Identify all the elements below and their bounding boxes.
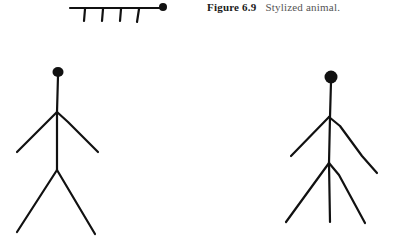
animal-leg-1 xyxy=(84,9,85,21)
drawing-canvas xyxy=(0,0,396,238)
animal-leg-2 xyxy=(102,9,103,21)
left-figure-left-leg xyxy=(17,170,57,232)
left-figure-spine xyxy=(57,76,58,170)
left-figure-left-arm xyxy=(17,112,57,152)
right-figure-spine xyxy=(329,82,331,163)
right-figure-left-leg xyxy=(286,163,329,222)
right-figure-left-arm xyxy=(291,117,329,156)
animal-leg-4 xyxy=(137,9,139,22)
stick-figure-left-drawing xyxy=(17,67,98,234)
left-figure-right-leg xyxy=(57,170,95,234)
stylized-animal-drawing xyxy=(70,3,167,22)
animal-leg-3 xyxy=(120,9,121,21)
right-figure-right-leg xyxy=(329,163,365,223)
right-figure-center-leg xyxy=(329,163,330,222)
animal-head xyxy=(159,3,167,11)
right-figure-right-arm xyxy=(329,117,377,173)
left-figure-right-arm xyxy=(57,112,98,152)
stick-figure-right-drawing xyxy=(286,71,377,224)
